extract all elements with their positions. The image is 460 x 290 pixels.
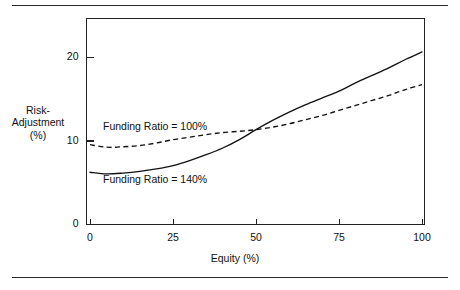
x-tick-label-50: 50 — [236, 231, 276, 243]
y-tick-marks — [87, 58, 94, 225]
x-tick-label-25: 25 — [153, 231, 193, 243]
series-annotation-funding-ratio-140: Funding Ratio = 140% — [103, 173, 207, 185]
series-annotation-funding-ratio-100: Funding Ratio = 100% — [103, 120, 207, 132]
y-tick-label-0: 0 — [53, 217, 79, 229]
x-tick-label-0: 0 — [70, 231, 110, 243]
series-line-funding-ratio-140 — [90, 52, 422, 174]
y-axis-title-line-1: Risk- — [6, 104, 70, 116]
y-tick-label-20: 20 — [53, 50, 79, 62]
x-axis-title: Equity (%) — [190, 252, 280, 264]
x-tick-marks — [91, 219, 423, 225]
x-tick-label-75: 75 — [319, 231, 359, 243]
figure-container: Risk- Adjustment (%) Equity (%) 01020 02… — [0, 0, 460, 290]
series-line-funding-ratio-100 — [90, 85, 422, 148]
y-axis-title-line-2: Adjustment — [6, 116, 70, 128]
y-tick-label-10: 10 — [53, 134, 79, 146]
x-tick-label-100: 100 — [402, 231, 442, 243]
